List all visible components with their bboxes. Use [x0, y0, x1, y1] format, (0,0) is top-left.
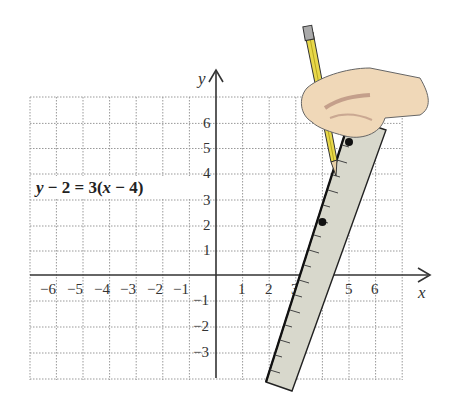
x-tick: 6	[371, 281, 379, 297]
y-tick: −3	[193, 344, 209, 360]
point-5-5	[345, 138, 353, 146]
y-tick-labels: 6 5 4 3 2 1 −1 −2 −3	[193, 115, 211, 360]
x-tick: −4	[94, 281, 110, 297]
point-4-2	[318, 218, 326, 226]
x-tick: 5	[345, 281, 353, 297]
equation-label: y − 2 = 3(x − 4)	[34, 178, 143, 197]
y-tick: 5	[203, 140, 211, 156]
y-tick: 1	[203, 242, 211, 258]
y-tick: −2	[193, 318, 209, 334]
x-axis-label: x	[417, 283, 426, 302]
x-tick: −5	[67, 281, 83, 297]
y-tick: 4	[203, 165, 211, 181]
x-tick: 1	[238, 281, 246, 297]
y-tick: 6	[203, 115, 211, 131]
x-tick: −6	[40, 281, 56, 297]
graph-figure: y x −6 −5 −4 −3 −2 −1 1 2 3 4 5 6 6 5 4 …	[0, 0, 454, 412]
x-tick: 2	[265, 281, 273, 297]
y-axis-label: y	[196, 69, 206, 88]
ruler	[266, 118, 386, 391]
y-tick: 2	[203, 217, 211, 233]
y-tick: −1	[193, 292, 209, 308]
x-tick: −1	[173, 281, 189, 297]
x-tick: −2	[147, 281, 163, 297]
x-tick: −3	[120, 281, 136, 297]
y-tick: 3	[203, 192, 211, 208]
